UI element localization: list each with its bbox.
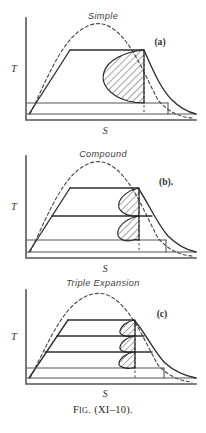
loss-lobe-hp-triple bbox=[120, 320, 135, 336]
expansion-curve-simple bbox=[144, 50, 196, 114]
chart-svg-simple: Simple T S (a) bbox=[0, 0, 206, 140]
caption-main: . (XI–10). bbox=[88, 404, 133, 415]
x-axis-label-compound: S bbox=[102, 263, 108, 274]
expansion-curve-compound bbox=[138, 188, 196, 252]
loss-lobe-hp-compound bbox=[119, 188, 139, 216]
loss-lobe-simple bbox=[103, 50, 144, 103]
chart-panel-simple: Simple T S (a) bbox=[0, 0, 206, 140]
x-axis-label-triple: S bbox=[102, 388, 108, 399]
cycle-left-slope-simple bbox=[29, 50, 70, 114]
chart-panel-compound: Compound T S (b). bbox=[0, 140, 206, 280]
loss-lobe-lp-compound bbox=[118, 216, 139, 241]
x-axis-label-simple: S bbox=[102, 125, 108, 136]
y-axis-label-compound: T bbox=[11, 201, 18, 212]
caption-smallcaps: IG bbox=[79, 406, 88, 415]
y-axis-label-simple: T bbox=[11, 63, 18, 74]
chart-title-triple: Triple Expansion bbox=[66, 278, 139, 288]
y-axis-label-triple: T bbox=[11, 331, 18, 342]
saturation-dome-triple bbox=[30, 293, 192, 382]
panel-label-b: (b). bbox=[159, 176, 173, 188]
chart-svg-triple: Triple Expansion T S (c) bbox=[0, 276, 206, 401]
figure-caption: FIG. (XI–10). bbox=[0, 404, 206, 415]
loss-lobe-lp-triple bbox=[119, 352, 135, 368]
panel-label-c: (c) bbox=[157, 308, 168, 320]
chart-title-simple: Simple bbox=[88, 11, 118, 21]
expansion-curve-triple bbox=[134, 320, 196, 378]
loss-lobe-ip-triple bbox=[120, 336, 135, 352]
chart-panel-triple-expansion: Triple Expansion T S (c) bbox=[0, 276, 206, 401]
figure-xi-10: Simple T S (a) bbox=[0, 0, 206, 433]
panel-label-a: (a) bbox=[154, 36, 165, 48]
chart-svg-compound: Compound T S (b). bbox=[0, 140, 206, 280]
cycle-left-slope-triple bbox=[29, 320, 68, 378]
cycle-left-slope-compound bbox=[29, 188, 70, 252]
chart-title-compound: Compound bbox=[79, 149, 127, 159]
